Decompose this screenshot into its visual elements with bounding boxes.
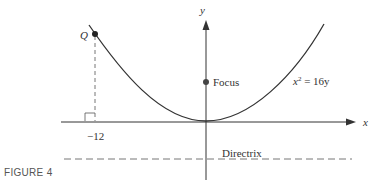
directrix-label: Directrix	[222, 147, 262, 159]
figure-caption: FIGURE 4	[4, 167, 53, 178]
tick-label: −12	[87, 130, 104, 142]
parabola-diagram: Q −12 Focus Directrix y x x2 = 16y FIGUR…	[0, 0, 382, 186]
y-axis-label: y	[199, 4, 205, 16]
focus-point	[203, 79, 209, 85]
point-q-label: Q	[80, 29, 88, 41]
equation-rest: = 16y	[301, 75, 330, 87]
point-q	[92, 31, 98, 37]
focus-label: Focus	[213, 76, 239, 88]
x-axis-label: x	[362, 116, 368, 128]
right-angle-mark	[85, 113, 95, 121]
x-axis-arrow-icon	[346, 119, 356, 126]
equation-label: x2 = 16y	[292, 75, 330, 87]
y-axis-arrow-icon	[203, 20, 210, 30]
